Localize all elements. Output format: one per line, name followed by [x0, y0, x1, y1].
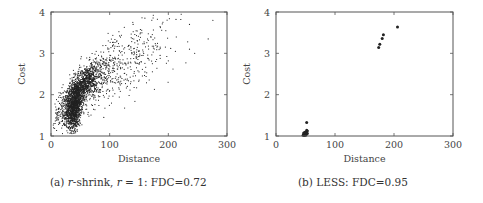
y-tick-label: 1 [39, 131, 45, 142]
caption-b-prefix: (b) [298, 176, 316, 188]
y-tick-label: 3 [264, 48, 270, 59]
plot-frame [276, 12, 453, 136]
caption-a-param: = 1: FDC=0.72 [122, 176, 207, 188]
scatter-plot-b: 01002003001234DistanceCost [225, 0, 466, 175]
data-points [302, 25, 399, 137]
data-points [53, 14, 214, 134]
y-tick-label: 1 [264, 131, 270, 142]
y-tick-label: 2 [264, 89, 270, 100]
x-tick-label: 0 [273, 139, 279, 150]
y-tick-label: 3 [39, 48, 45, 59]
y-axis-label: Cost [16, 63, 27, 85]
caption-b-text: LESS: FDC=0.95 [316, 176, 408, 188]
x-tick-label: 100 [326, 139, 344, 150]
x-tick-label: 100 [101, 139, 119, 150]
x-tick-label: 200 [385, 139, 403, 150]
caption-a: (a) r-shrink, r = 1: FDC=0.72 [50, 176, 207, 188]
y-tick-label: 2 [39, 89, 45, 100]
chart-panel-b: 01002003001234DistanceCost (b) LESS: FDC… [225, 0, 466, 203]
y-tick-label: 4 [264, 7, 270, 18]
caption-a-prefix: (a) [50, 176, 68, 188]
y-tick-label: 4 [39, 7, 45, 18]
y-axis-label: Cost [241, 63, 252, 85]
x-tick-label: 0 [48, 139, 54, 150]
caption-a-method: -shrink, [73, 176, 117, 188]
x-tick-label: 300 [444, 139, 462, 150]
scatter-plot-a: 01002003001234DistanceCost [0, 0, 241, 175]
x-axis-label: Distance [118, 153, 160, 164]
x-axis-label: Distance [343, 153, 385, 164]
caption-b: (b) LESS: FDC=0.95 [298, 176, 408, 188]
x-tick-label: 200 [159, 139, 177, 150]
chart-panel-a: 01002003001234DistanceCost (a) r-shrink,… [0, 0, 241, 203]
